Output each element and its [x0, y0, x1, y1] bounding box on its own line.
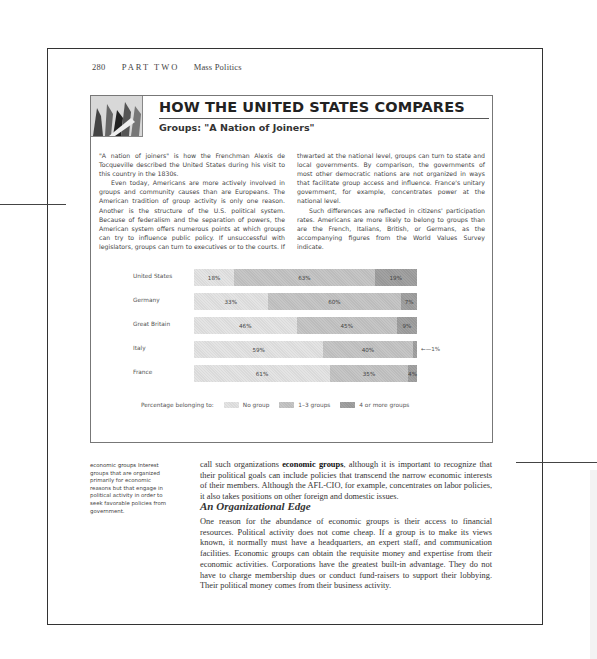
- legend-swatch-1-3: [279, 402, 294, 408]
- box-subtitle: Groups: "A Nation of Joiners": [159, 122, 314, 133]
- box-column-2: thwarted at the national level, groups c…: [297, 151, 485, 251]
- legend-label: 4 or more groups: [359, 402, 409, 408]
- page-number: 280: [92, 62, 105, 72]
- bar-segment-no-group: 59%: [194, 341, 323, 358]
- paragraph: "A nation of joiners" is how the Frenchm…: [99, 151, 285, 178]
- legend-swatch-4-plus: [340, 402, 355, 408]
- section-heading: An Organizational Edge: [200, 500, 311, 512]
- italy-annotation: ←—1%: [421, 346, 440, 352]
- paragraph: Such differences are reflected in citize…: [297, 206, 485, 251]
- bar-segment-1-3: 63%: [234, 269, 374, 286]
- legend-label: 1–3 groups: [298, 402, 330, 408]
- row-label: United States: [133, 273, 172, 279]
- page-edge-shadow: [590, 470, 597, 659]
- section-label: Mass Politics: [194, 62, 242, 72]
- box-title: HOW THE UNITED STATES COMPARES: [159, 99, 465, 115]
- running-head: 280 PART TWO Mass Politics: [92, 62, 242, 72]
- bar-segment-1-3: 60%: [268, 293, 402, 310]
- bar-segment-4-plus: 19%: [375, 269, 417, 286]
- bar-segment-4-plus: 4%: [408, 365, 417, 382]
- chart-row: Germany 33% 60% 7%: [91, 293, 492, 310]
- bar-segment-no-group: 33%: [194, 293, 268, 310]
- bar-segment-1-3: 40%: [323, 341, 412, 358]
- glossary-note: economic groups Interest groups that are…: [90, 462, 170, 515]
- legend-title: Percentage belonging to:: [141, 402, 214, 408]
- chart-row: Italy 59% 40% ←—1%: [91, 341, 492, 358]
- glossary-term: economic groups: [90, 462, 136, 468]
- row-label: Great Britain: [133, 321, 170, 327]
- body-paragraph-1: call such organizations economic groups,…: [200, 460, 492, 503]
- row-label: Germany: [133, 297, 160, 303]
- chart-row: Great Britain 46% 45% 9%: [91, 317, 492, 334]
- crop-mark-left: [0, 204, 66, 205]
- chart-row: United States 18% 63% 19%: [91, 269, 492, 286]
- bar-segment-1-3: 45%: [297, 317, 397, 334]
- paragraph: One reason for the abundance of economic…: [200, 517, 492, 592]
- stacked-bar: 33% 60% 7%: [194, 293, 417, 310]
- chart-row: France 61% 35% 4%: [91, 365, 492, 382]
- comparison-box: HOW THE UNITED STATES COMPARES Groups: "…: [90, 95, 493, 443]
- box-column-1: "A nation of joiners" is how the Frenchm…: [99, 151, 285, 251]
- stacked-bar: 46% 45% 9%: [194, 317, 417, 334]
- chart-legend: Percentage belonging to: No group 1–3 gr…: [141, 402, 409, 408]
- crop-mark-right: [516, 462, 597, 463]
- bar-segment-4-plus: 9%: [397, 317, 417, 334]
- bar-segment-no-group: 18%: [194, 269, 234, 286]
- legend-label: No group: [243, 402, 270, 408]
- text: call such organizations: [200, 460, 282, 469]
- paragraph: Even today, Americans are more actively …: [99, 178, 285, 251]
- bar-segment-no-group: 46%: [194, 317, 297, 334]
- row-label: Italy: [133, 345, 146, 351]
- stacked-bar: 61% 35% 4%: [194, 365, 417, 382]
- bar-segment-no-group: 61%: [194, 365, 330, 382]
- stacked-bar: 59% 40%: [194, 341, 417, 358]
- glossary-definition: Interest groups that are organized prima…: [90, 462, 166, 514]
- part-label: PART TWO: [122, 62, 180, 72]
- row-label: France: [133, 369, 152, 375]
- bar-segment-1-3: 35%: [330, 365, 408, 382]
- body-paragraph-2: One reason for the abundance of economic…: [200, 517, 492, 592]
- legend-swatch-no-group: [224, 402, 239, 408]
- stacked-bar: 18% 63% 19%: [194, 269, 417, 286]
- key-term: economic groups: [282, 460, 343, 469]
- title-rule: [159, 118, 489, 119]
- bar-segment-4-plus: 7%: [401, 293, 417, 310]
- bar-segment-4-plus: [413, 341, 417, 358]
- flags-photo-icon: [91, 96, 143, 137]
- paragraph: thwarted at the national level, groups c…: [297, 151, 485, 206]
